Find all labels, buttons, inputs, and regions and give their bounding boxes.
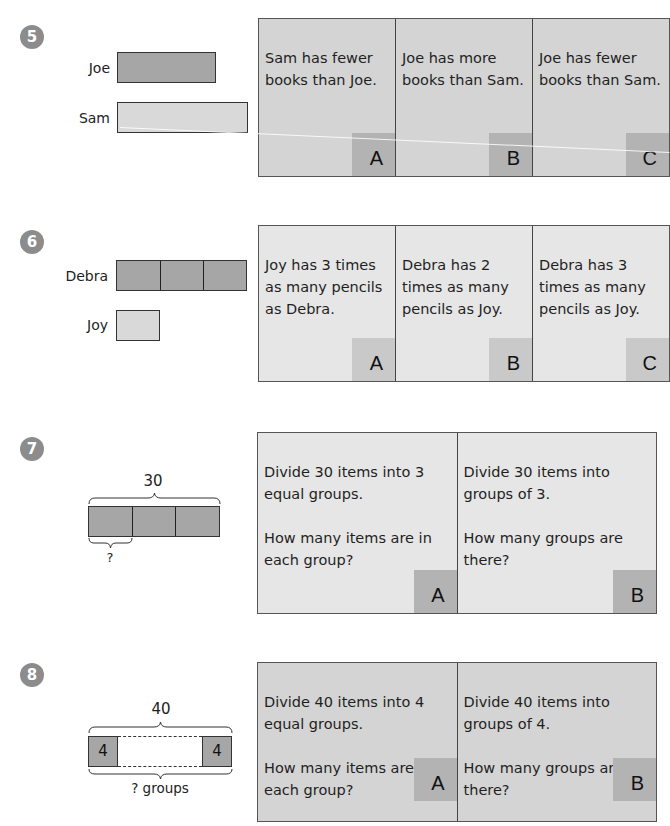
choice-text: Debra has 3 times as many pencils as Joy… — [539, 257, 646, 317]
part-label: ? — [100, 550, 120, 565]
problem-number-badge: 7 — [20, 437, 44, 461]
choice-text: Divide 30 items into groups of 3. — [464, 464, 610, 502]
bar-label-joe: Joe — [50, 60, 110, 76]
choice-card-c[interactable]: Joe has fewer books than Sam. C — [532, 19, 669, 176]
choice-letter-b: B — [613, 570, 656, 613]
choice-card-b[interactable]: Divide 40 items into groups of 4. How ma… — [457, 663, 657, 821]
problem-8: 8 40 4 4 ? groups Divide 40 items into 4… — [0, 630, 670, 803]
top-brace-icon — [88, 722, 233, 734]
choice-letter-a: A — [352, 338, 395, 381]
choice-card-b[interactable]: Debra has 2 times as many pencils as Joy… — [395, 226, 532, 381]
total-label: 40 — [138, 700, 184, 718]
bar-label-debra: Debra — [48, 268, 108, 284]
choice-text: Divide 40 items into 4 equal groups. — [264, 694, 424, 732]
total-label: 30 — [130, 472, 176, 490]
answer-choices: Divide 30 items into 3 equal groups. How… — [257, 432, 657, 614]
problem-7: 7 30 ? Divide 30 items into 3 equal grou… — [0, 420, 670, 620]
answer-choices: Joy has 3 times as many pencils as Debra… — [258, 225, 670, 382]
choice-question: How many items are in each group? — [264, 527, 451, 571]
bar-segment-divider — [160, 261, 161, 290]
answer-choices: Divide 40 items into 4 equal groups. How… — [257, 662, 657, 822]
problem-5: 5 Joe Sam Sam has fewer books than Joe. … — [0, 0, 670, 190]
choice-card-a[interactable]: Divide 30 items into 3 equal groups. How… — [258, 433, 457, 613]
choice-letter-c: C — [626, 133, 669, 176]
dashed-top-line — [118, 736, 202, 737]
choice-text: Sam has fewer books than Joe. — [265, 50, 377, 88]
problem-6: 6 Debra Joy Joy has 3 times as many penc… — [0, 200, 670, 400]
choice-text: Joy has 3 times as many pencils as Debra… — [265, 257, 382, 317]
bottom-brace-icon — [88, 537, 133, 549]
group-box-right: 4 — [202, 736, 232, 767]
top-brace-icon — [88, 493, 221, 505]
groups-label: ? groups — [120, 780, 200, 796]
bar-debra — [116, 260, 247, 291]
problem-number-badge: 5 — [20, 25, 44, 49]
choice-card-a[interactable]: Joy has 3 times as many pencils as Debra… — [259, 226, 395, 381]
problem-number-badge: 6 — [20, 230, 44, 254]
bar-segment-divider — [175, 507, 176, 536]
choice-letter-b: B — [489, 133, 532, 176]
choice-letter-b: B — [613, 758, 656, 801]
bar-joy — [116, 310, 160, 341]
choice-text: Divide 30 items into 3 equal groups. — [264, 464, 424, 502]
choice-text: Joe has more books than Sam. — [402, 50, 524, 88]
bar-segment-divider — [132, 507, 133, 536]
choice-letter-b: B — [489, 338, 532, 381]
choice-card-c[interactable]: Debra has 3 times as many pencils as Joy… — [532, 226, 669, 381]
dashed-bottom-line — [118, 766, 202, 767]
choice-question: How many groups are there? — [464, 527, 651, 571]
group-box-left: 4 — [88, 736, 118, 767]
answer-choices: Sam has fewer books than Joe. A Joe has … — [258, 18, 670, 177]
choice-letter-c: C — [626, 338, 669, 381]
choice-text: Debra has 2 times as many pencils as Joy… — [402, 257, 509, 317]
choice-letter-a: A — [414, 758, 457, 801]
bar-joe — [117, 52, 216, 83]
choice-card-a[interactable]: Divide 40 items into 4 equal groups. How… — [258, 663, 457, 821]
choice-text: Divide 40 items into groups of 4. — [464, 694, 610, 732]
choice-letter-a: A — [414, 570, 457, 613]
choice-card-b[interactable]: Joe has more books than Sam. B — [395, 19, 532, 176]
bar-segment-divider — [203, 261, 204, 290]
choice-text: Joe has fewer books than Sam. — [539, 50, 661, 88]
bar-label-joy: Joy — [48, 317, 108, 333]
bar-30-items — [88, 506, 220, 537]
bar-label-sam: Sam — [50, 110, 110, 126]
bottom-brace-icon — [88, 768, 233, 780]
choice-card-b[interactable]: Divide 30 items into groups of 3. How ma… — [457, 433, 657, 613]
problem-number-badge: 8 — [20, 663, 44, 687]
choice-card-a[interactable]: Sam has fewer books than Joe. A — [259, 19, 395, 176]
